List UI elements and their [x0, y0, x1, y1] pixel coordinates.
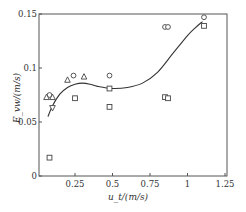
circle-marker: [202, 15, 207, 20]
square-marker: [166, 96, 171, 101]
scatter-chart: 00.050.10.15 0.250.50.7511.25 u_t/(m/s) …: [0, 0, 246, 212]
x-tick-label: 0.75: [141, 179, 160, 189]
circle-marker: [107, 73, 112, 78]
x-tick-label: 0.5: [106, 179, 120, 189]
x-tick-label: 1: [185, 179, 190, 189]
square-marker: [107, 104, 112, 109]
plot-border: [39, 14, 227, 176]
fit-curve: [48, 22, 203, 117]
triangle-up-marker: [81, 74, 87, 79]
square-marker: [47, 155, 52, 160]
triangle-up-marker: [65, 77, 71, 82]
square-marker: [202, 23, 207, 28]
circle-marker: [166, 25, 171, 30]
x-tick-label: 0.25: [66, 179, 85, 189]
y-tick-label: 0.1: [23, 63, 37, 73]
square-marker: [73, 96, 78, 101]
circle-marker: [71, 73, 76, 78]
x-axis-label: u_t/(m/s): [108, 192, 149, 203]
fit-curve-line: [48, 22, 203, 117]
plot-frame: [39, 14, 227, 176]
y-tick-label: 0: [32, 171, 37, 181]
y-axis-label: E_vw/(m/s): [12, 72, 23, 124]
x-tick-label: 1.25: [216, 179, 235, 189]
x-axis-ticks: 0.250.50.7511.25: [66, 173, 235, 189]
square-marker: [107, 86, 112, 91]
y-tick-label: 0.15: [18, 9, 37, 19]
